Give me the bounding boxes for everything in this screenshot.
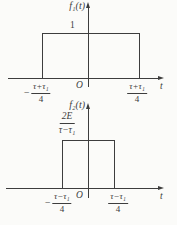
f2-x-axis — [6, 188, 159, 189]
f2-left-tick-label: − τ−τ₁ 4 — [44, 192, 71, 214]
f2-left-tick-denominator: 4 — [60, 205, 65, 214]
f2-left-tick-sign: − — [44, 198, 51, 208]
f2-amplitude-label: 2E τ−τ₁ — [59, 112, 76, 135]
f2-origin-label: O — [76, 191, 83, 201]
plot-f2: f₂(t) 2E τ−τ₁ − τ−τ₁ 4 O — [0, 0, 177, 225]
f2-axis-label: f₂(t) — [54, 100, 85, 110]
f2-t-label: t — [160, 192, 163, 202]
f2-left-tick-fraction: τ−τ₁ 4 — [52, 192, 72, 214]
f2-x-axis-arrow-icon — [158, 186, 164, 190]
f2-right-tick-denominator: 4 — [116, 205, 121, 214]
f2-pulse — [62, 140, 115, 188]
f2-left-tick-numerator: τ−τ₁ — [52, 192, 72, 204]
f2-right-tick-label: τ−τ₁ 4 — [108, 192, 128, 214]
f2-amplitude-denominator: τ−τ₁ — [59, 126, 76, 136]
f2-right-tick-numerator: τ−τ₁ — [108, 192, 128, 204]
f2-y-axis-arrow-icon — [86, 103, 90, 109]
f2-amplitude-fraction: 2E τ−τ₁ — [59, 112, 76, 135]
f2-right-tick-fraction: τ−τ₁ 4 — [108, 192, 128, 214]
f2-amplitude-numerator: 2E — [60, 112, 75, 124]
figure-rect-pulse-pair: f₁(t) 1 − τ+τ₁ 4 O τ+τ₁ 4 t — [0, 0, 177, 225]
